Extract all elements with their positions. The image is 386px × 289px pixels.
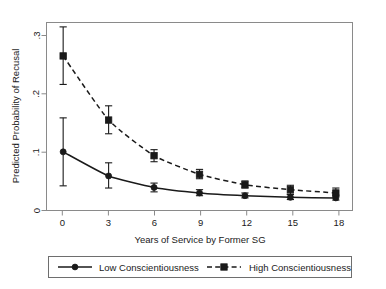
data-point-circle-marker (287, 194, 293, 200)
x-tick-label: 6 (152, 217, 157, 228)
x-tick-label: 9 (198, 217, 203, 228)
chart-background (0, 0, 386, 289)
legend-circle-marker-icon (72, 264, 78, 270)
legend-label-low: Low Conscientiousness (99, 262, 199, 273)
data-point-square-marker (333, 190, 339, 196)
y-tick-label: .2 (31, 90, 42, 98)
data-point-square-marker (105, 117, 111, 123)
data-point-square-marker (242, 182, 248, 188)
chart-legend: Low Conscientiousness High Conscientious… (49, 257, 352, 278)
data-point-circle-marker (60, 149, 66, 155)
y-tick-label: 0 (31, 208, 42, 213)
legend-square-marker-icon (221, 264, 227, 270)
chart-figure: 0 .1 .2 .3 Predicted Probability of Recu… (0, 0, 386, 289)
x-tick-label: 15 (288, 217, 299, 228)
y-axis-title: Predicted Probability of Recusal (10, 49, 21, 184)
data-point-square-marker (196, 171, 202, 177)
data-point-square-marker (287, 186, 293, 192)
x-tick-label: 12 (241, 217, 252, 228)
x-tick-label: 0 (60, 217, 65, 228)
recusal-probability-line-chart: 0 .1 .2 .3 Predicted Probability of Recu… (0, 0, 386, 289)
data-point-square-marker (151, 152, 157, 158)
x-axis-title: Years of Service by Former SG (134, 234, 265, 245)
data-point-circle-marker (151, 184, 157, 190)
legend-label-high: High Conscientiousness (249, 262, 351, 273)
data-point-square-marker (60, 53, 66, 59)
data-point-circle-marker (197, 190, 203, 196)
x-tick-label: 18 (334, 217, 345, 228)
y-tick-label: .3 (31, 32, 42, 40)
data-point-circle-marker (106, 173, 112, 179)
x-tick-label: 3 (106, 217, 111, 228)
y-tick-label: .1 (31, 148, 42, 156)
data-point-circle-marker (242, 193, 248, 199)
